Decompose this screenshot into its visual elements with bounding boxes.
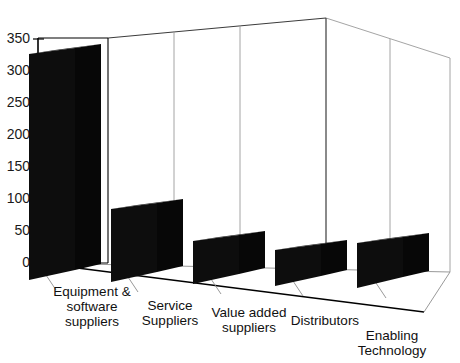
cat-label-service-suppliers: Service Suppliers — [142, 298, 199, 328]
cat-label-distributors: Distributors — [291, 313, 360, 328]
cat-label-value-added-suppliers: Value added suppliers — [212, 305, 287, 335]
y-tick-label-250: 250 — [7, 94, 31, 110]
bar-equipment-software-suppliers[interactable] — [29, 44, 101, 280]
cat-2-line-0: Value added — [212, 305, 287, 320]
cat-4-line-0: Enabling — [366, 328, 419, 343]
bar-1-face — [29, 48, 75, 280]
bar-3-side — [239, 231, 265, 274]
cat-label-enabling-technology: Enabling Technology — [358, 328, 427, 358]
bar-chart-3d: 0 50 100 150 200 250 300 350 — [0, 0, 460, 363]
y-tick-label-100: 100 — [7, 190, 31, 206]
cat-4-line-1: Technology — [358, 343, 427, 358]
y-tick-label-200: 200 — [7, 126, 31, 142]
bar-1-side — [75, 44, 101, 270]
y-tick-label-350: 350 — [7, 30, 31, 46]
cat-1-line-1: Suppliers — [142, 313, 199, 328]
cat-2-line-1: suppliers — [222, 320, 276, 335]
bar-5-side — [403, 233, 429, 277]
cat-0-line-1: software — [66, 299, 117, 314]
bar-4-side — [321, 240, 347, 276]
bar-2-face — [111, 203, 157, 282]
y-tick-label-300: 300 — [7, 62, 31, 78]
bar-2-side — [157, 199, 183, 272]
cat-0-line-2: suppliers — [65, 314, 119, 329]
cat-3-line-0: Distributors — [291, 313, 360, 328]
cat-0-line-0: Equipment & — [53, 284, 130, 299]
cat-1-line-0: Service — [147, 298, 192, 313]
chart-container: 0 50 100 150 200 250 300 350 — [0, 0, 460, 363]
y-tick-label-50: 50 — [14, 222, 30, 238]
y-tick-label-150: 150 — [7, 158, 31, 174]
